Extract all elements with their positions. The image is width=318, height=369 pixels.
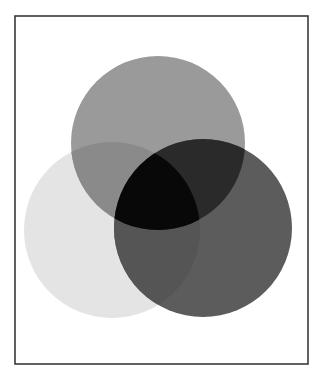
venn-diagram [0,0,318,369]
